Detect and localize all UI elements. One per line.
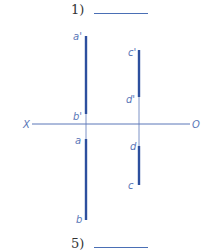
- svg-text:c': c': [128, 47, 136, 58]
- svg-text:b': b': [73, 111, 82, 122]
- answer-blank-bottom[interactable]: [94, 247, 148, 248]
- svg-text:b: b: [76, 214, 82, 225]
- svg-text:O: O: [192, 119, 200, 130]
- svg-text:X: X: [22, 119, 31, 130]
- svg-text:a': a': [73, 31, 82, 42]
- projection-diagram: X O a' b' c' d' a b d c: [0, 0, 203, 251]
- svg-text:a: a: [75, 135, 81, 146]
- svg-text:d': d': [126, 94, 135, 105]
- svg-text:d: d: [130, 141, 137, 152]
- question-number-bottom: 5): [71, 236, 84, 251]
- svg-text:c: c: [128, 180, 134, 191]
